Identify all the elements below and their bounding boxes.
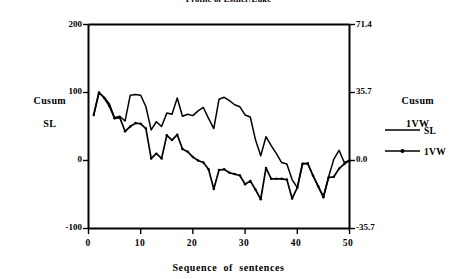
x-tick-0: 0 <box>76 238 100 249</box>
series-line-1vw <box>94 93 350 200</box>
data-point <box>239 174 242 177</box>
y-tick-left-0: 0 <box>44 154 82 164</box>
data-point <box>171 139 174 142</box>
legend-label-1vw: 1VW <box>424 147 457 158</box>
data-point <box>166 134 169 137</box>
data-point <box>296 186 299 189</box>
data-point <box>134 122 137 125</box>
data-point <box>108 105 111 108</box>
data-point <box>306 162 309 165</box>
data-series-layer <box>92 91 350 200</box>
x-tick-10: 10 <box>128 238 152 249</box>
data-point <box>139 123 142 126</box>
series-1vw <box>92 91 350 200</box>
x-tick-20: 20 <box>180 238 204 249</box>
series-sl <box>94 93 350 197</box>
data-point <box>92 114 95 117</box>
series-line-sl <box>94 93 350 197</box>
legend-marker-dot-icon <box>400 149 404 153</box>
data-point <box>202 161 205 164</box>
data-point <box>150 157 153 160</box>
data-point <box>218 169 221 172</box>
x-axis-label: Sequence of sentences <box>0 262 457 273</box>
data-point <box>338 167 341 170</box>
data-point <box>312 174 315 177</box>
y-tick-right-0-0: 0.0 <box>356 154 404 164</box>
data-point <box>322 196 325 199</box>
y-axis-label-left-line1: Cusum <box>34 95 67 106</box>
data-point <box>176 133 179 136</box>
data-point <box>186 150 189 153</box>
data-point <box>275 178 278 181</box>
data-point <box>119 116 122 119</box>
x-tick-30: 30 <box>232 238 256 249</box>
data-point <box>213 188 216 191</box>
data-point <box>129 125 132 128</box>
data-point <box>333 176 336 179</box>
data-point <box>145 127 148 130</box>
data-point <box>286 178 289 181</box>
data-point <box>265 167 268 170</box>
y-tick-right-35-7: 35.7 <box>356 86 404 96</box>
data-point <box>113 117 116 120</box>
data-point <box>291 197 294 200</box>
chart-figure: Profile of Esther/Luke Cusum SL Cusum 1V… <box>0 0 457 279</box>
data-point <box>254 188 256 191</box>
data-point <box>223 168 226 171</box>
chart-title: Profile of Esther/Luke <box>0 0 457 3</box>
data-point <box>327 176 330 179</box>
data-point <box>233 173 236 176</box>
data-point <box>155 152 158 155</box>
data-point <box>160 157 163 160</box>
y-tick-left-100: 100 <box>44 86 82 96</box>
x-tick-40: 40 <box>284 238 308 249</box>
data-point <box>103 97 106 100</box>
data-point <box>280 178 283 181</box>
y-axis-label-right-line1: Cusum <box>402 95 435 106</box>
data-point <box>348 159 351 162</box>
y-tick-right-minus35-7: -35.7 <box>356 222 404 232</box>
axes-frame <box>89 25 350 229</box>
data-point <box>181 148 184 151</box>
y-tick-right-71-4: 71.4 <box>356 19 404 29</box>
y-axis-label-left-line2: SL <box>43 118 56 129</box>
data-point <box>207 168 210 171</box>
data-point <box>98 91 101 94</box>
data-point <box>270 178 273 181</box>
x-tick-50: 50 <box>336 238 360 249</box>
y-tick-left-minus100: -100 <box>40 222 82 232</box>
data-point <box>228 171 231 174</box>
data-point <box>244 183 247 186</box>
data-point <box>249 180 252 183</box>
data-point <box>197 159 200 162</box>
data-point <box>192 156 195 159</box>
data-point <box>260 198 263 201</box>
data-point <box>317 185 320 188</box>
data-point <box>124 130 127 133</box>
data-point <box>343 163 346 166</box>
legend-label-sl: SL <box>424 126 454 137</box>
data-point <box>301 163 304 166</box>
y-tick-left-200: 200 <box>44 19 82 29</box>
